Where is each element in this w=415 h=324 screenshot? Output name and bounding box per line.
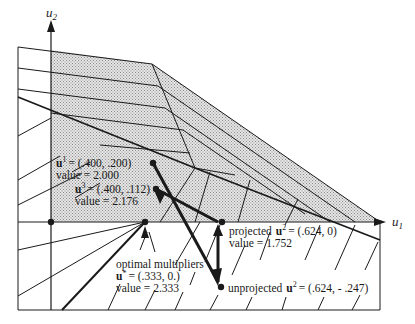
point-unprojected-u2 xyxy=(218,284,224,290)
point-optimal xyxy=(142,219,148,225)
label-projected-u2-coords: projectedu2= (.624, 0) xyxy=(229,223,337,238)
u2-axis-label: u2 xyxy=(46,5,58,22)
label-optimal-value: value = 2.333 xyxy=(116,282,179,294)
point-projected-u2 xyxy=(219,219,225,225)
point-u3 xyxy=(153,186,159,192)
point-axis-origin-mark xyxy=(48,219,54,225)
label-optimal-coords: u*= (.333, 0.) xyxy=(116,269,180,283)
label-unprojected-u2-coords: unprojectedu2= (.624, - .247) xyxy=(228,280,369,295)
point-u1 xyxy=(150,160,156,166)
label-projected-u2-value: value = 1.752 xyxy=(229,237,292,249)
label-u3-value: value = 2.176 xyxy=(75,195,138,207)
arrow-to-unprojected-icon xyxy=(210,268,222,286)
arrow-to-optimal-icon xyxy=(141,226,149,238)
label-u1-value: value = 2.000 xyxy=(56,169,119,181)
dual-multiplier-diagram: u2 u1 u1= (.400, .200) value = 2.000 u3=… xyxy=(0,0,415,324)
arrow-to-projected-icon xyxy=(213,224,223,236)
u1-axis-label: u1 xyxy=(392,214,403,231)
